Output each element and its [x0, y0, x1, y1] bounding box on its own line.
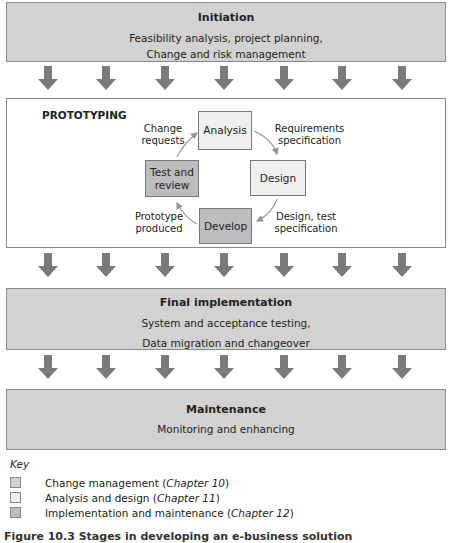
down-arrow-icon: [96, 355, 116, 379]
down-arrow-icon: [38, 253, 58, 277]
down-arrow-icon: [214, 253, 234, 277]
analysis-box: Analysis: [198, 111, 252, 150]
figure-caption: Figure 10.3 Stages in developing an e-bu…: [4, 530, 352, 543]
key-chapter-0: Chapter 10: [166, 477, 225, 489]
down-arrow-icon: [332, 355, 352, 379]
test-review-box: Test and review: [145, 160, 199, 197]
arrow-row-1: [0, 66, 450, 92]
prototype-line2: produced: [131, 223, 187, 235]
key-item-change-management: Change management (Chapter 10): [10, 476, 229, 489]
test-review-label-2: review: [155, 179, 190, 192]
change-requests-line1: Change: [139, 123, 187, 135]
down-arrow-icon: [274, 253, 294, 277]
key-item-analysis-design: Analysis and design (Chapter 11): [10, 491, 220, 504]
stage-maintenance: Maintenance Monitoring and enhancing: [6, 389, 446, 450]
key-chapter-1: Chapter 11: [157, 492, 216, 504]
down-arrow-icon: [38, 355, 58, 379]
design-box: Design: [250, 160, 306, 196]
swatch-implementation-maintenance: [10, 507, 21, 518]
down-arrow-icon: [392, 253, 412, 277]
down-arrow-icon: [392, 355, 412, 379]
final-implementation-desc-line1: System and acceptance testing,: [7, 315, 445, 331]
maintenance-title: Maintenance: [7, 403, 445, 416]
initiation-desc-line1: Feasibility analysis, project planning,: [7, 30, 445, 46]
prototype-line1: Prototype: [131, 211, 187, 223]
arrow-row-3: [0, 355, 450, 381]
design-test-label: Design, test specification: [271, 211, 341, 235]
down-arrow-icon: [392, 66, 412, 90]
down-arrow-icon: [274, 66, 294, 90]
key-title: Key: [10, 458, 29, 470]
swatch-change-management: [10, 477, 21, 488]
swatch-analysis-design: [10, 492, 21, 503]
key-close-1: ): [216, 492, 220, 504]
key-label-1: Analysis and design (: [45, 492, 157, 504]
down-arrow-icon: [155, 66, 175, 90]
requirements-line2: specification: [272, 135, 347, 147]
prototype-produced-label: Prototype produced: [131, 211, 187, 235]
analysis-label: Analysis: [203, 124, 246, 137]
down-arrow-icon: [96, 253, 116, 277]
test-review-label-1: Test and: [150, 166, 194, 179]
down-arrow-icon: [96, 66, 116, 90]
initiation-title: Initiation: [7, 11, 445, 24]
down-arrow-icon: [274, 355, 294, 379]
down-arrow-icon: [214, 66, 234, 90]
final-implementation-title: Final implementation: [7, 296, 445, 309]
requirements-label: Requirements specification: [272, 123, 347, 147]
arrow-row-2: [0, 253, 450, 279]
key-item-implementation-maintenance: Implementation and maintenance (Chapter …: [10, 506, 294, 519]
maintenance-desc: Monitoring and enhancing: [7, 421, 445, 437]
down-arrow-icon: [214, 355, 234, 379]
final-implementation-desc-line2: Data migration and changeover: [7, 335, 445, 351]
key-label-2: Implementation and maintenance (: [45, 507, 231, 519]
stage-prototyping: PROTOTYPING Analysis Design Develop Test…: [6, 98, 446, 248]
design-test-line2: specification: [271, 223, 341, 235]
stage-initiation: Initiation Feasibility analysis, project…: [6, 2, 446, 62]
down-arrow-icon: [38, 66, 58, 90]
develop-label: Develop: [204, 220, 247, 233]
down-arrow-icon: [332, 253, 352, 277]
down-arrow-icon: [332, 66, 352, 90]
down-arrow-icon: [155, 355, 175, 379]
design-test-line1: Design, test: [271, 211, 341, 223]
initiation-desc-line2: Change and risk management: [7, 46, 445, 62]
requirements-line1: Requirements: [272, 123, 347, 135]
key-close-0: ): [225, 477, 229, 489]
stage-final-implementation: Final implementation System and acceptan…: [6, 288, 446, 350]
down-arrow-icon: [155, 253, 175, 277]
key-chapter-2: Chapter 12: [231, 507, 290, 519]
key-close-2: ): [290, 507, 294, 519]
change-requests-label: Change requests: [139, 123, 187, 147]
design-label: Design: [260, 172, 296, 185]
key-label-0: Change management (: [45, 477, 166, 489]
develop-box: Develop: [199, 208, 252, 244]
change-requests-line2: requests: [139, 135, 187, 147]
